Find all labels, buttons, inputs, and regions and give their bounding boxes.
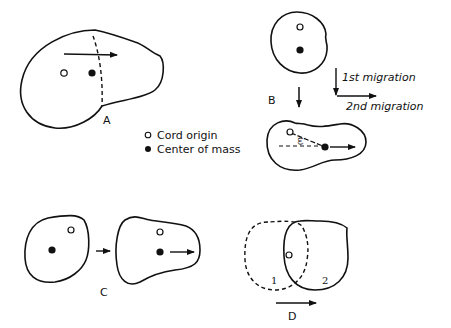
panel-label-a: A — [103, 114, 111, 127]
angle-omega-label: ω — [296, 137, 307, 145]
center-of-mass-b-bottom — [321, 143, 328, 150]
panel-label-c: C — [100, 286, 108, 299]
outline-2-solid — [284, 221, 348, 290]
cell-outline-c-left — [25, 216, 89, 283]
second-migration-label: 2nd migration — [346, 100, 424, 113]
center-of-mass-c-right — [156, 248, 163, 255]
cell-outline-a — [21, 30, 164, 128]
legend-cord-origin: Cord origin — [157, 129, 218, 142]
outline-1-label: 1 — [271, 275, 277, 286]
panel-c: C — [25, 216, 200, 299]
legend-center-of-mass: Center of mass — [157, 143, 241, 156]
center-of-mass-c-left — [48, 246, 55, 253]
arrow-a — [64, 54, 117, 55]
first-migration-label: 1st migration — [342, 71, 416, 84]
cord-origin-c-left — [68, 227, 74, 233]
cord-origin-d — [286, 252, 292, 258]
panel-b: B 1st migration 2nd migration ω — [267, 12, 424, 170]
cord-origin-b-bottom — [287, 129, 293, 135]
migration-diagram: A Cord origin Center of mass B 1st migra… — [0, 0, 451, 328]
outline-2-label: 2 — [322, 275, 328, 286]
panel-label-b: B — [268, 94, 276, 107]
cell-outline-b-top — [271, 12, 327, 73]
center-of-mass-a — [88, 69, 95, 76]
cord-origin-a — [61, 70, 67, 76]
center-of-mass-b-top — [296, 46, 303, 53]
panel-d: 1 2 D — [245, 221, 348, 323]
legend-filled-circle-icon — [145, 146, 151, 152]
legend-open-circle-icon — [145, 132, 151, 138]
cord-origin-c-right — [157, 229, 163, 235]
panel-label-d: D — [288, 310, 296, 323]
legend: Cord origin Center of mass — [145, 129, 241, 156]
cord-origin-b-top — [297, 24, 303, 30]
panel-a: A — [21, 30, 164, 128]
